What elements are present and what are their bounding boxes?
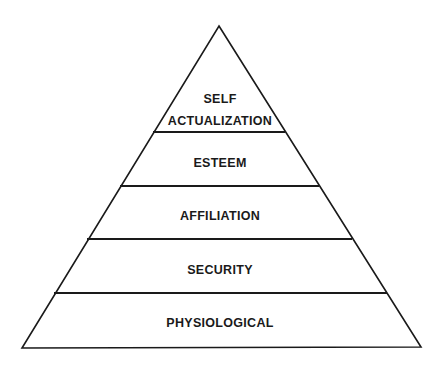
level-security: SECURITY (187, 263, 253, 277)
level-physiological: PHYSIOLOGICAL (166, 316, 273, 330)
pyramid-outline (22, 26, 421, 348)
level-self-actualization-line1: SELF (203, 92, 236, 106)
level-affiliation: AFFILIATION (180, 209, 260, 223)
hierarchy-pyramid-diagram: SELF ACTUALIZATION ESTEEM AFFILIATION SE… (0, 0, 441, 369)
level-self-actualization-line2: ACTUALIZATION (168, 114, 272, 128)
level-esteem: ESTEEM (193, 156, 246, 170)
